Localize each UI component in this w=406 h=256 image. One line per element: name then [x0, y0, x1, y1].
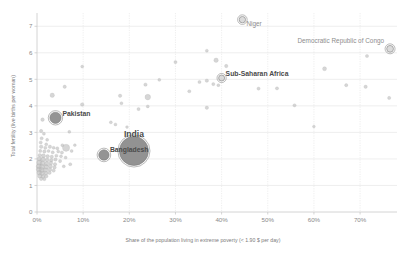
data-point[interactable]: [45, 143, 48, 146]
data-point[interactable]: [54, 158, 57, 161]
data-point[interactable]: [39, 177, 43, 181]
data-point[interactable]: [205, 49, 208, 52]
y-tick-label: 6: [29, 49, 33, 56]
x-tick-label: 70%: [354, 216, 367, 223]
data-point[interactable]: [38, 153, 42, 157]
data-point[interactable]: [40, 137, 43, 140]
y-tick-label: 7: [29, 22, 33, 29]
data-point[interactable]: [41, 118, 45, 122]
data-point[interactable]: [73, 144, 76, 147]
data-point[interactable]: [63, 85, 66, 88]
data-point[interactable]: [188, 90, 191, 93]
data-point[interactable]: [62, 165, 65, 168]
data-point[interactable]: [365, 54, 368, 57]
data-point[interactable]: [47, 149, 50, 152]
plot-area: 012345670%10%20%30%40%50%60%70%NigerDemo…: [0, 0, 406, 256]
data-point[interactable]: [68, 130, 71, 133]
x-tick-label: 60%: [308, 216, 321, 223]
data-point[interactable]: [52, 146, 55, 149]
data-point[interactable]: [69, 163, 72, 166]
data-point-highlighted[interactable]: [99, 150, 109, 160]
data-point-highlighted[interactable]: [50, 112, 61, 123]
data-point-label: Sub-Saharan Africa: [226, 70, 289, 77]
data-point[interactable]: [137, 107, 140, 110]
x-axis-title: Share of the population living in extrem…: [0, 237, 406, 243]
data-point[interactable]: [39, 145, 43, 149]
data-point[interactable]: [80, 103, 84, 107]
y-tick-label: 1: [29, 182, 33, 189]
data-point[interactable]: [388, 96, 391, 99]
data-point[interactable]: [57, 150, 60, 153]
y-tick-label: 3: [29, 129, 33, 136]
data-point[interactable]: [212, 83, 215, 86]
data-point-label: Niger: [246, 20, 262, 28]
data-point[interactable]: [55, 154, 58, 157]
data-point[interactable]: [145, 94, 151, 100]
data-point[interactable]: [70, 149, 73, 152]
y-tick-label: 5: [29, 76, 33, 83]
data-point[interactable]: [257, 87, 260, 90]
data-point[interactable]: [323, 67, 327, 71]
data-point[interactable]: [214, 58, 218, 62]
data-point[interactable]: [50, 93, 54, 97]
x-tick-label: 30%: [169, 216, 182, 223]
y-axis-title: Total fertility (live births per woman): [10, 46, 16, 186]
x-tick-label: 20%: [123, 216, 136, 223]
x-tick-label: 50%: [262, 216, 275, 223]
data-point[interactable]: [60, 151, 63, 154]
data-point-highlighted[interactable]: [239, 16, 245, 22]
data-point[interactable]: [46, 154, 50, 158]
data-point[interactable]: [293, 104, 296, 107]
data-point[interactable]: [39, 149, 42, 152]
data-point[interactable]: [62, 144, 69, 151]
data-point[interactable]: [345, 84, 348, 87]
data-point[interactable]: [39, 141, 42, 144]
scatter-chart: 012345670%10%20%30%40%50%60%70%NigerDemo…: [0, 0, 406, 256]
data-point[interactable]: [48, 145, 51, 148]
data-point[interactable]: [64, 156, 67, 159]
data-point[interactable]: [48, 171, 52, 175]
data-point[interactable]: [118, 94, 121, 97]
data-point-highlighted[interactable]: [219, 75, 225, 81]
data-point[interactable]: [51, 151, 54, 154]
data-point[interactable]: [205, 79, 208, 82]
data-point[interactable]: [174, 60, 177, 63]
y-tick-label: 0: [29, 208, 33, 215]
data-point[interactable]: [146, 105, 149, 108]
data-point[interactable]: [120, 102, 123, 105]
data-point-label: Bangladesh: [110, 146, 149, 154]
data-point-label: Pakistan: [62, 110, 90, 117]
data-point[interactable]: [364, 85, 367, 88]
data-point[interactable]: [144, 83, 147, 86]
data-point-label: India: [124, 129, 144, 139]
data-point[interactable]: [313, 125, 316, 128]
data-point[interactable]: [225, 64, 228, 67]
data-point[interactable]: [114, 123, 117, 126]
data-point[interactable]: [46, 138, 49, 141]
data-point[interactable]: [56, 147, 59, 150]
data-point-label: Democratic Republic of Congo: [297, 37, 384, 45]
data-point[interactable]: [43, 177, 46, 180]
y-tick-label: 4: [29, 102, 33, 109]
data-point[interactable]: [39, 129, 42, 132]
data-point[interactable]: [158, 78, 161, 81]
data-point[interactable]: [44, 146, 47, 149]
data-point[interactable]: [58, 159, 61, 162]
x-tick-label: 10%: [77, 216, 90, 223]
data-point[interactable]: [81, 65, 84, 68]
data-point[interactable]: [198, 80, 201, 83]
data-point[interactable]: [109, 121, 112, 124]
data-point[interactable]: [217, 84, 220, 87]
data-point[interactable]: [275, 87, 278, 90]
data-point-highlighted[interactable]: [387, 45, 394, 52]
y-tick-label: 2: [29, 155, 33, 162]
data-point[interactable]: [60, 155, 63, 158]
data-point[interactable]: [205, 106, 208, 109]
data-point[interactable]: [50, 155, 53, 158]
data-point[interactable]: [42, 132, 45, 135]
data-point[interactable]: [43, 150, 46, 153]
data-point[interactable]: [53, 166, 56, 169]
data-point[interactable]: [52, 169, 55, 172]
data-point[interactable]: [53, 163, 56, 166]
x-tick-label: 0%: [33, 216, 42, 223]
